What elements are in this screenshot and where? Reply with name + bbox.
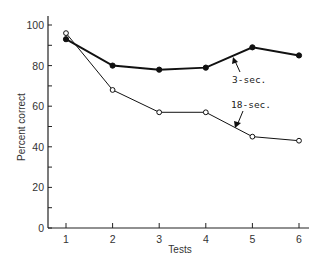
y-axis-label: Percent correct	[16, 93, 27, 161]
open-circle-marker-icon	[203, 110, 208, 115]
x-tick-label: 5	[249, 233, 255, 245]
arrowhead-18-sec-icon	[234, 121, 241, 128]
series-annotations: 3-sec. 18-sec.	[231, 57, 271, 128]
x-axis-label: Tests	[168, 244, 191, 255]
open-circle-marker-icon	[110, 88, 115, 93]
open-circle-marker-icon	[64, 31, 69, 36]
x-tick-label: 4	[203, 233, 209, 245]
series-line-3-sec	[66, 39, 299, 69]
open-circle-marker-icon	[157, 110, 162, 115]
filled-circle-marker-icon	[296, 53, 301, 58]
y-tick-label: 0	[38, 222, 44, 234]
open-circle-marker-icon	[250, 134, 255, 139]
y-tick-label: 100	[26, 19, 44, 31]
line-chart: 020406080100 123456 Percent correct Test…	[0, 0, 324, 265]
filled-circle-marker-icon	[250, 45, 255, 50]
filled-circle-marker-icon	[63, 37, 68, 42]
y-tick-label: 40	[32, 141, 44, 153]
filled-circle-marker-icon	[110, 63, 115, 68]
y-tick-label: 80	[32, 60, 44, 72]
open-circle-marker-icon	[297, 138, 302, 143]
x-tick-label: 1	[63, 233, 69, 245]
x-tick-label: 3	[156, 233, 162, 245]
label-3-sec: 3-sec.	[232, 74, 266, 85]
series-lines	[63, 31, 301, 143]
label-18-sec: 18-sec.	[231, 99, 271, 110]
x-tick-label: 2	[110, 233, 116, 245]
y-tick-label: 20	[32, 181, 44, 193]
arrow-18-sec	[238, 111, 243, 123]
x-tick-label: 6	[296, 233, 302, 245]
y-axis: 020406080100	[26, 16, 52, 234]
y-tick-label: 60	[32, 100, 44, 112]
x-axis: 123456	[48, 223, 309, 245]
arrowhead-3-sec-icon	[232, 57, 238, 64]
filled-circle-marker-icon	[157, 67, 162, 72]
filled-circle-marker-icon	[203, 65, 208, 70]
